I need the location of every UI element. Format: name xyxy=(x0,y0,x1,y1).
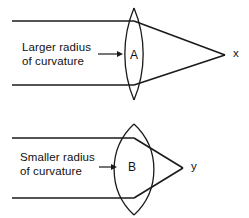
panel-a-pointer-arrowhead xyxy=(117,51,123,57)
figure-drawing-canvas xyxy=(0,0,249,218)
panel-b-lens-letter: B xyxy=(128,160,136,174)
panel-a-focal-point-label: x xyxy=(233,47,239,59)
panel-b-focal-point-label: y xyxy=(191,160,197,172)
panel-a-refracted-ray-top xyxy=(134,21,225,55)
panel-b-refracted-ray-bottom xyxy=(134,168,183,198)
panel-b-caption-line1: Smaller radius xyxy=(20,151,95,163)
panel-b-refracted-ray-top xyxy=(134,138,183,168)
panel-a-refracted-ray-bottom xyxy=(134,55,225,85)
panel-b-caption-line2: of curvature xyxy=(20,165,82,177)
panel-b-caption: Smaller radiusof curvature xyxy=(20,151,95,178)
panel-a-caption: Larger radiusof curvature xyxy=(22,41,91,68)
panel-a-lens-letter: A xyxy=(130,48,138,62)
panel-b-lens-right-surface xyxy=(134,124,154,215)
panel-a-caption-line1: Larger radius xyxy=(22,41,91,53)
lens-refraction-figure: Larger radiusof curvature Smaller radius… xyxy=(0,0,249,218)
panel-a-caption-line2: of curvature xyxy=(22,55,84,67)
